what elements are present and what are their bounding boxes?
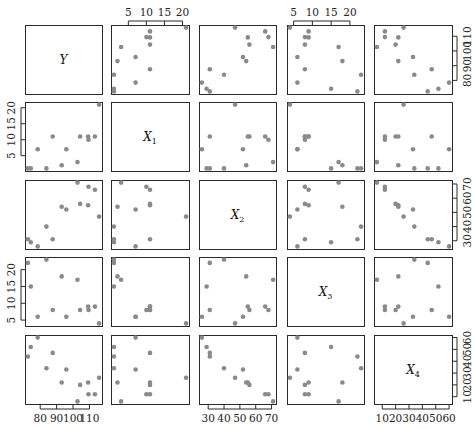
data-point: [288, 376, 293, 381]
data-point: [303, 35, 308, 40]
panel-Y-vs-X4: [375, 25, 453, 94]
data-point: [271, 160, 276, 165]
data-point: [271, 277, 276, 282]
data-point: [266, 392, 271, 397]
data-point: [355, 237, 360, 242]
panel-X3-vs-X1: [112, 257, 190, 326]
data-point: [93, 187, 98, 192]
data-point: [396, 274, 401, 279]
panel-X4-vs-X3: [288, 335, 365, 404]
data-point: [75, 277, 80, 282]
data-point: [50, 237, 55, 242]
data-point: [303, 67, 308, 72]
data-point: [263, 29, 268, 34]
data-point: [29, 284, 34, 289]
panel-frame: [112, 258, 190, 327]
data-point: [59, 204, 64, 209]
data-point: [396, 59, 401, 64]
tick-label: 20: [343, 6, 356, 18]
data-point: [133, 367, 138, 372]
tick-label: 15: [158, 6, 171, 18]
data-point: [436, 284, 441, 289]
tick-label: 70: [461, 177, 473, 190]
data-point: [64, 367, 69, 372]
data-point: [222, 366, 227, 371]
data-point: [429, 67, 434, 72]
data-point: [112, 345, 117, 350]
data-point: [355, 354, 360, 359]
data-point: [288, 102, 293, 107]
panel-X3-vs-Y: [26, 257, 103, 326]
data-point: [44, 366, 49, 371]
data-point: [64, 314, 69, 319]
panel-frame: [26, 336, 103, 405]
data-point: [184, 321, 189, 326]
panel-frame: [200, 258, 277, 327]
data-point: [425, 261, 430, 266]
tick-label: 5: [5, 317, 17, 324]
data-point: [244, 59, 249, 64]
data-point: [303, 237, 308, 242]
data-point: [148, 351, 153, 356]
data-point: [383, 185, 388, 190]
data-point: [50, 134, 55, 139]
data-point: [411, 55, 416, 60]
data-point: [412, 257, 417, 262]
data-point: [97, 102, 102, 107]
data-point: [44, 166, 49, 171]
tick-label: 10: [5, 133, 17, 146]
data-point: [184, 214, 189, 219]
data-point: [144, 35, 149, 40]
data-point: [233, 102, 238, 107]
tick-label: 60: [461, 331, 473, 344]
data-point: [93, 134, 98, 139]
data-point: [75, 399, 80, 404]
tick-label: 60: [461, 191, 473, 204]
data-point: [78, 202, 83, 207]
data-point: [295, 244, 300, 249]
data-point: [340, 163, 345, 168]
tick-label: 15: [324, 6, 337, 18]
data-point: [401, 321, 406, 326]
data-point: [295, 335, 300, 340]
data-point: [200, 147, 205, 152]
data-point: [411, 207, 416, 212]
data-point: [148, 42, 153, 47]
panel-X2-vs-X1: [112, 180, 190, 249]
tick-label: 40: [416, 412, 429, 424]
data-point: [425, 237, 430, 242]
data-point: [233, 25, 238, 30]
data-point: [222, 257, 227, 262]
panel-X1-vs-X3: [288, 102, 365, 171]
data-point: [359, 73, 364, 78]
data-point: [329, 87, 334, 92]
tick-label: 70: [265, 412, 278, 424]
data-point: [112, 257, 117, 262]
data-point: [148, 29, 153, 34]
panel-X2-vs-X2: X2: [200, 181, 277, 250]
panel-frame: [288, 103, 365, 172]
data-point: [233, 321, 238, 326]
panel-X4-vs-X2: [200, 335, 277, 404]
data-point: [86, 392, 91, 397]
tick-label: 40: [217, 412, 230, 424]
data-point: [306, 29, 311, 34]
data-point: [288, 25, 293, 30]
data-point: [148, 203, 153, 208]
data-point: [35, 335, 40, 340]
data-point: [411, 314, 416, 319]
data-point: [295, 80, 300, 85]
tick-label: 30: [461, 234, 473, 247]
panel-X4-vs-X4: X4: [375, 336, 453, 405]
data-point: [266, 35, 271, 40]
panel-Y-vs-X2: [200, 25, 277, 94]
tick-label: 20: [5, 101, 17, 114]
tick-label: 10: [5, 297, 17, 310]
tick-label: 5: [125, 6, 132, 18]
panel-frame: [200, 26, 277, 95]
panel-X3-vs-X3: X3: [288, 258, 365, 327]
data-point: [266, 308, 271, 313]
data-point: [436, 87, 441, 92]
tick-label: 10: [140, 6, 153, 18]
data-point: [295, 367, 300, 372]
